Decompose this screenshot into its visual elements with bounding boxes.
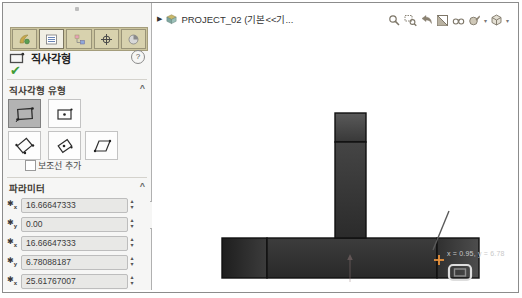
parameter-input[interactable]: 0.00 [21, 217, 128, 232]
featuremanager-tree-icon [18, 33, 31, 46]
tab-propertymanager[interactable] [39, 29, 64, 49]
sketch-region-column-top[interactable] [335, 113, 366, 142]
sketch-region-base-middle[interactable] [267, 238, 437, 278]
cursor-coordinates-label: x = 0.95, y = 6.78 [447, 250, 505, 257]
parameter-row: ✱x 16.66647333 ▴▾ [3, 198, 151, 212]
corner-rectangle-icon [13, 104, 37, 124]
tab-configurationmanager[interactable] [66, 29, 91, 49]
center-rectangle-icon [53, 104, 77, 124]
help-icon[interactable]: ? [131, 50, 145, 64]
construction-line-checkbox[interactable] [25, 160, 36, 171]
rectangle-type-header[interactable]: 직사각형 유형 ^ [9, 83, 145, 96]
displaymanager-icon [127, 33, 140, 46]
parallelogram-icon [90, 136, 114, 156]
parameters-header[interactable]: 파라미터 ^ [9, 181, 145, 194]
point-x-coordinate-icon: ✱x [7, 237, 17, 248]
sketch-region-base-left[interactable] [222, 238, 267, 278]
three-point-center-rectangle-icon [53, 136, 77, 156]
configurationmanager-icon [73, 33, 86, 46]
rectangle-type-label: 직사각형 유형 [9, 85, 66, 96]
parameter-input[interactable]: 16.66647333 [21, 198, 128, 213]
point-x-coordinate-icon: ✱x [7, 275, 17, 286]
spinner[interactable]: ▴▾ [127, 274, 137, 287]
point-y-coordinate-icon: ✱y [7, 218, 17, 229]
parameter-row: ✱x 25.61767007 ▴▾ [3, 274, 151, 288]
propertymanager-icon [45, 33, 58, 46]
tab-displaymanager[interactable] [121, 29, 146, 49]
property-title: 직사각형 [31, 50, 71, 66]
parameter-row: ✱y 6.78088187 ▴▾ [3, 255, 151, 269]
construction-line-label: 보조선 추가 [38, 159, 81, 172]
parameter-input[interactable]: 25.61767007 [21, 274, 128, 289]
point-x-coordinate-icon: ✱x [7, 199, 17, 210]
center-rectangle-button[interactable] [48, 99, 81, 128]
collapse-chevron-icon[interactable]: ^ [140, 83, 145, 93]
tab-featuremanager[interactable] [12, 29, 37, 49]
spinner[interactable]: ▴▾ [127, 217, 137, 230]
parameter-row: ✱y 0.00 ▴▾ [3, 217, 151, 231]
parameter-input[interactable]: 6.78088187 [21, 255, 128, 270]
property-title-row: 직사각형 ? [9, 50, 147, 66]
spinner[interactable]: ▴▾ [127, 198, 137, 211]
spinner[interactable]: ▴▾ [127, 255, 137, 268]
ok-check-button[interactable]: ✔ [10, 63, 21, 78]
tab-dimxpertmanager[interactable] [94, 29, 119, 49]
three-point-center-rectangle-button[interactable] [48, 131, 81, 160]
parameter-row: ✱x 16.66647333 ▴▾ [3, 236, 151, 250]
collapse-chevron-icon[interactable]: ^ [140, 181, 145, 191]
property-manager-panel: 직사각형 ? ✔ 직사각형 유형 ^ [3, 3, 152, 290]
divider [7, 79, 147, 80]
parallelogram-button[interactable] [85, 131, 118, 160]
screenshot-root: 직사각형 ? ✔ 직사각형 유형 ^ [0, 0, 522, 298]
sketch-region-column[interactable] [335, 142, 366, 238]
panel-grip-dot[interactable] [75, 7, 79, 11]
sketch-geometry [152, 3, 518, 290]
three-point-corner-rectangle-icon [13, 136, 37, 156]
parameter-input[interactable]: 16.66647333 [21, 236, 128, 251]
solidworks-window: 직사각형 ? ✔ 직사각형 유형 ^ [2, 2, 519, 293]
divider [7, 177, 147, 178]
sketch-region-base-right[interactable] [437, 238, 479, 278]
dimxpertmanager-icon [100, 33, 113, 46]
corner-rectangle-button[interactable] [8, 99, 41, 128]
graphics-area[interactable]: ▶ PROJECT_02 (기본<<기... [152, 3, 518, 290]
parameters-label: 파라미터 [9, 183, 45, 194]
point-y-coordinate-icon: ✱y [7, 256, 17, 267]
manager-tab-strip [10, 27, 148, 51]
three-point-corner-rectangle-button[interactable] [8, 131, 41, 160]
spinner[interactable]: ▴▾ [127, 236, 137, 249]
